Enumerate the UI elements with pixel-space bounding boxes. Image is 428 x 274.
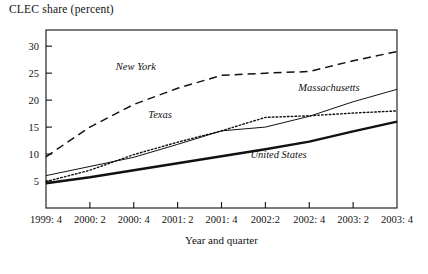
x-axis-tick-label: 2003: 2 bbox=[337, 214, 369, 225]
chart-figure: CLEC share (percent) 510152025301999: 42… bbox=[0, 0, 428, 274]
y-axis-tick-label: 15 bbox=[29, 122, 40, 133]
x-axis-tick-label: 2001: 2 bbox=[162, 214, 194, 225]
series-line-texas bbox=[46, 111, 397, 182]
x-axis-tick-label: 2000: 4 bbox=[118, 214, 151, 225]
x-axis-tick-label: 2002: 4 bbox=[293, 214, 326, 225]
x-axis-tick-label: 2000: 2 bbox=[74, 214, 106, 225]
y-axis-tick-label: 10 bbox=[29, 149, 40, 160]
x-axis-tick-label: 1999: 4 bbox=[30, 214, 63, 225]
y-axis-tick-label: 5 bbox=[34, 176, 39, 187]
y-axis-tick-label: 25 bbox=[29, 68, 40, 79]
plot-frame bbox=[46, 30, 397, 208]
y-axis-tick-label: 30 bbox=[29, 41, 40, 52]
y-axis-tick-label: 20 bbox=[29, 95, 40, 106]
line-chart-svg: 510152025301999: 42000: 22000: 42001: 22… bbox=[0, 0, 428, 274]
series-label-new-york: New York bbox=[115, 61, 157, 72]
series-label-texas: Texas bbox=[148, 109, 172, 120]
series-label-massachusetts: Massachusetts bbox=[297, 82, 359, 93]
x-axis-tick-label: 2001: 4 bbox=[206, 214, 239, 225]
series-label-united-states: United States bbox=[250, 149, 306, 160]
x-axis-tick-label: 2002:2 bbox=[251, 214, 280, 225]
x-axis-tick-label: 2003: 4 bbox=[381, 214, 414, 225]
x-axis-title: Year and quarter bbox=[185, 234, 258, 246]
